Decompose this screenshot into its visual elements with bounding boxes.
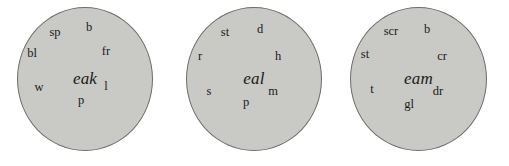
wheel-onset-label: l [104, 80, 107, 93]
wheel-onset-label: st [221, 26, 229, 39]
word-wheel-eal: ealstdhmpsr [186, 7, 322, 151]
wheel-rime-label: eam [404, 69, 433, 89]
word-wheel-eam: eamscrbcrdrgltst [350, 7, 487, 151]
word-wheel-eak: eakspbfrlpwbl [17, 7, 153, 151]
wheel-onset-label: t [370, 83, 373, 96]
wheel-onset-label: s [207, 85, 212, 98]
wheel-onset-label: cr [437, 50, 447, 63]
word-family-wheels-figure: eakspbfrlpwblealstdhmpsreamscrbcrdrgltst [0, 0, 509, 166]
wheel-onset-label: b [86, 21, 92, 34]
wheel-rime-label: eak [73, 69, 97, 89]
wheel-onset-label: w [34, 81, 43, 94]
wheel-onset-label: d [257, 23, 263, 36]
wheel-onset-label: scr [384, 25, 399, 38]
wheel-onset-label: r [198, 50, 202, 63]
wheel-onset-label: st [361, 48, 369, 61]
wheel-onset-label: bl [27, 47, 37, 60]
wheel-onset-label: p [78, 94, 84, 107]
wheel-onset-label: b [424, 23, 430, 36]
wheel-onset-label: gl [404, 98, 414, 111]
wheel-onset-label: sp [49, 26, 60, 39]
wheel-onset-label: h [275, 50, 281, 63]
wheel-onset-label: fr [102, 45, 110, 58]
wheel-onset-label: m [268, 85, 278, 98]
wheel-rime-label: eal [243, 69, 264, 89]
wheel-onset-label: dr [433, 85, 443, 98]
wheel-onset-label: p [243, 96, 249, 109]
